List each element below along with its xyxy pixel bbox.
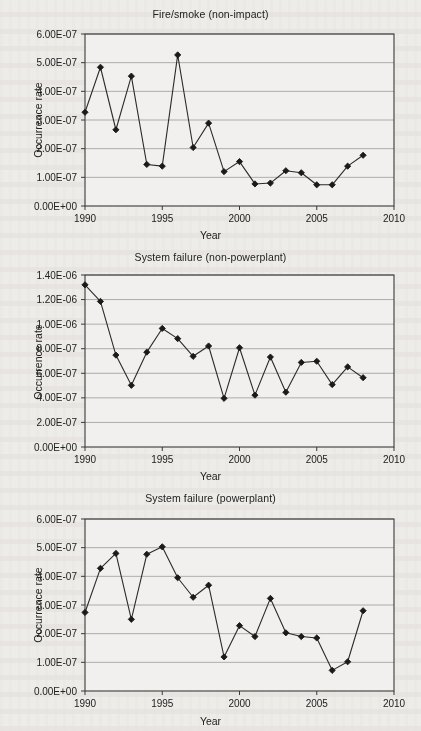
y-tick-label: 1.40E-06 — [36, 270, 77, 281]
y-tick-label: 8.00E-07 — [36, 343, 77, 354]
y-tick-label: 6.00E-07 — [36, 514, 77, 525]
plot-area: 0.00E+001.00E-072.00E-073.00E-074.00E-07… — [0, 0, 421, 243]
y-tick-label: 1.00E-07 — [36, 172, 77, 183]
y-tick-label: 5.00E-07 — [36, 57, 77, 68]
x-tick-label: 1990 — [74, 454, 97, 465]
x-tick-label: 2000 — [228, 454, 251, 465]
y-tick-label: 4.00E-07 — [36, 571, 77, 582]
x-tick-label: 1995 — [151, 454, 174, 465]
x-tick-label: 2000 — [228, 213, 251, 224]
y-tick-label: 4.00E-07 — [36, 86, 77, 97]
plot-area: 0.00E+001.00E-072.00E-073.00E-074.00E-07… — [0, 484, 421, 729]
x-tick-label: 1995 — [151, 213, 174, 224]
y-tick-label: 2.00E-07 — [36, 628, 77, 639]
y-tick-label: 3.00E-07 — [36, 115, 77, 126]
y-tick-label: 1.00E-06 — [36, 319, 77, 330]
x-axis-label: Year — [0, 229, 421, 241]
y-tick-label: 2.00E-07 — [36, 143, 77, 154]
y-tick-label: 0.00E+00 — [34, 442, 78, 453]
y-tick-label: 0.00E+00 — [34, 686, 78, 697]
y-tick-label: 6.00E-07 — [36, 29, 77, 40]
chart-panel-fire-smoke: Fire/smoke (non-impact) Occurrence rate … — [0, 0, 421, 243]
x-tick-label: 2000 — [228, 698, 251, 709]
y-tick-label: 6.00E-07 — [36, 368, 77, 379]
x-tick-label: 2005 — [306, 454, 329, 465]
plot-background — [85, 275, 394, 447]
x-tick-label: 2005 — [306, 213, 329, 224]
plot-area: 0.00E+002.00E-074.00E-076.00E-078.00E-07… — [0, 243, 421, 484]
y-tick-label: 5.00E-07 — [36, 542, 77, 553]
x-tick-label: 2010 — [383, 698, 406, 709]
x-tick-label: 1990 — [74, 213, 97, 224]
x-tick-label: 1990 — [74, 698, 97, 709]
chart-panel-system-failure-non-powerplant: System failure (non-powerplant) Occurren… — [0, 243, 421, 484]
y-tick-label: 4.00E-07 — [36, 392, 77, 403]
y-tick-label: 1.20E-06 — [36, 294, 77, 305]
x-tick-label: 1995 — [151, 698, 174, 709]
x-tick-label: 2005 — [306, 698, 329, 709]
y-tick-label: 1.00E-07 — [36, 657, 77, 668]
x-axis-label: Year — [0, 470, 421, 482]
y-tick-label: 3.00E-07 — [36, 600, 77, 611]
chart-panel-system-failure-powerplant: System failure (powerplant) Occurrence r… — [0, 484, 421, 729]
y-tick-label: 2.00E-07 — [36, 417, 77, 428]
x-tick-label: 2010 — [383, 454, 406, 465]
figure-three-panel-line-charts: Fire/smoke (non-impact) Occurrence rate … — [0, 0, 421, 729]
y-tick-label: 0.00E+00 — [34, 201, 78, 212]
x-tick-label: 2010 — [383, 213, 406, 224]
x-axis-label: Year — [0, 715, 421, 727]
